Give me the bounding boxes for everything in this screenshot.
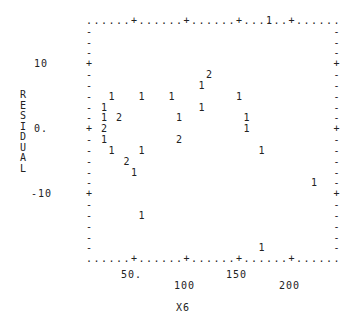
y-axis-minor-right: -: [334, 81, 340, 91]
x-axis-tick-top: +: [236, 16, 242, 26]
y-axis-minor-left: -: [86, 135, 92, 145]
x-tick-label-150: 150: [226, 270, 247, 280]
y-axis-minor-left: -: [86, 168, 92, 178]
border-dot: .: [326, 254, 332, 264]
y-axis-minor-right: -: [334, 200, 340, 210]
border-dot: .: [191, 16, 197, 26]
y-axis-minor-right: -: [334, 157, 340, 167]
border-dot: .: [176, 254, 182, 264]
data-point: 1: [259, 146, 265, 156]
data-point: 2: [116, 113, 122, 123]
x-axis-tick-top: +: [289, 16, 295, 26]
border-dot: .: [101, 16, 107, 26]
border-dot: .: [304, 16, 310, 26]
border-dot: .: [274, 254, 280, 264]
data-point: 1: [101, 113, 107, 123]
x-axis-tick-top: +: [131, 16, 137, 26]
data-point: 1: [311, 178, 317, 188]
border-dot: .: [86, 16, 92, 26]
border-dot: .: [274, 16, 280, 26]
x-axis-tick-bottom: +: [184, 254, 190, 264]
y-axis-minor-right: -: [334, 146, 340, 156]
border-dot: .: [296, 16, 302, 26]
x-axis-tick-bottom: +: [236, 254, 242, 264]
border-dot: .: [259, 16, 265, 26]
y-axis-tick-left: +: [86, 189, 92, 199]
y-axis-minor-left: -: [86, 146, 92, 156]
border-dot: .: [304, 254, 310, 264]
data-point: 1: [131, 168, 137, 178]
data-point: 2: [176, 135, 182, 145]
border-dot: .: [176, 16, 182, 26]
border-dot: .: [161, 16, 167, 26]
y-axis-minor-right: -: [334, 38, 340, 48]
data-point: 1: [101, 103, 107, 113]
data-point: 1: [266, 16, 272, 26]
y-axis-minor-right: -: [334, 27, 340, 37]
border-dot: .: [221, 254, 227, 264]
y-axis-tick-right: +: [334, 189, 340, 199]
y-axis-minor-right: -: [334, 70, 340, 80]
y-axis-label: RESIDUAL: [18, 90, 28, 174]
data-point: 1: [109, 92, 115, 102]
border-dot: .: [251, 16, 257, 26]
border-dot: .: [334, 16, 340, 26]
y-axis-label-letter: L: [18, 164, 28, 175]
y-axis-minor-left: -: [86, 38, 92, 48]
y-tick-label-minus10: -10: [31, 189, 52, 199]
border-dot: .: [206, 254, 212, 264]
border-dot: .: [281, 254, 287, 264]
border-dot: .: [169, 254, 175, 264]
data-point: 1: [244, 113, 250, 123]
data-point: 1: [169, 92, 175, 102]
data-point: 1: [139, 211, 145, 221]
x-tick-label-100: 100: [174, 281, 195, 291]
data-point: 2: [206, 70, 212, 80]
y-axis-minor-right: -: [334, 243, 340, 253]
border-dot: .: [161, 254, 167, 264]
y-axis-minor-right: -: [334, 211, 340, 221]
border-dot: .: [124, 16, 130, 26]
border-dot: .: [251, 254, 257, 264]
data-point: 1: [109, 146, 115, 156]
y-axis-minor-left: -: [86, 81, 92, 91]
y-tick-label-10: 10: [34, 59, 48, 69]
border-dot: .: [214, 254, 220, 264]
border-dot: .: [146, 16, 152, 26]
y-axis-label-letter: A: [18, 153, 28, 164]
y-axis-minor-left: -: [86, 211, 92, 221]
data-point: 2: [124, 157, 130, 167]
y-axis-minor-right: -: [334, 168, 340, 178]
border-dot: .: [296, 254, 302, 264]
y-axis-tick-left: +: [86, 59, 92, 69]
y-axis-minor-right: -: [334, 178, 340, 188]
y-axis-minor-right: -: [334, 233, 340, 243]
x-tick-label-50: 50.: [121, 270, 142, 280]
y-axis-minor-left: -: [86, 92, 92, 102]
border-dot: .: [199, 254, 205, 264]
border-dot: .: [214, 16, 220, 26]
border-dot: .: [206, 16, 212, 26]
y-axis-minor-left: -: [86, 157, 92, 167]
border-dot: .: [199, 16, 205, 26]
y-axis-tick-left: +: [86, 124, 92, 134]
border-dot: .: [334, 254, 340, 264]
border-dot: .: [139, 16, 145, 26]
border-dot: .: [116, 16, 122, 26]
y-axis-tick-right: +: [334, 59, 340, 69]
y-axis-label-letter: S: [18, 111, 28, 122]
border-dot: .: [259, 254, 265, 264]
x-tick-label-200: 200: [279, 281, 300, 291]
border-dot: .: [154, 16, 160, 26]
y-axis-minor-right: -: [334, 48, 340, 58]
y-axis-minor-right: -: [334, 222, 340, 232]
border-dot: .: [319, 16, 325, 26]
border-dot: .: [311, 254, 317, 264]
data-point: 1: [139, 146, 145, 156]
y-axis-minor-left: -: [86, 113, 92, 123]
y-axis-minor-left: -: [86, 103, 92, 113]
y-axis-minor-left: -: [86, 222, 92, 232]
y-tick-label-0: 0.: [34, 124, 48, 134]
y-axis-minor-left: -: [86, 243, 92, 253]
border-dot: .: [266, 254, 272, 264]
